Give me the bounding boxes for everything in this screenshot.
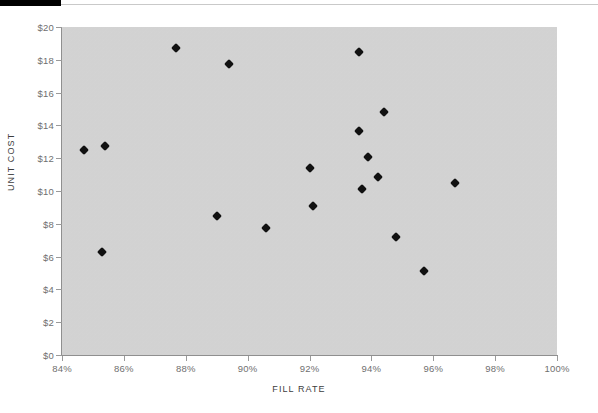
data-point	[261, 223, 271, 233]
x-tick-label: 92%	[300, 363, 320, 374]
data-point	[379, 107, 389, 117]
data-point	[305, 163, 315, 173]
x-tick-label: 86%	[114, 363, 134, 374]
data-point	[391, 232, 401, 242]
scatter-chart-figure: $0$2$4$6$8$10$12$14$16$18$20 84%86%88%90…	[0, 0, 598, 413]
y-tick-label: $4	[2, 284, 54, 295]
x-tick-mark	[310, 356, 311, 361]
data-point	[97, 247, 107, 257]
y-tick-mark	[56, 289, 62, 290]
y-tick-mark	[56, 158, 62, 159]
x-tick-label: 96%	[423, 363, 443, 374]
y-tick-mark	[56, 257, 62, 258]
x-axis-title: FILL RATE	[0, 384, 598, 394]
x-tick-mark	[371, 356, 372, 361]
plot-area	[62, 27, 557, 355]
x-tick-label: 84%	[52, 363, 72, 374]
y-tick-mark	[56, 93, 62, 94]
y-tick-label: $6	[2, 251, 54, 262]
y-axis-title: UNIT COST	[6, 133, 16, 191]
y-tick-mark	[56, 322, 62, 323]
y-tick-label: $20	[2, 22, 54, 33]
y-tick-mark	[56, 125, 62, 126]
data-point	[172, 43, 182, 53]
data-point	[354, 126, 364, 136]
x-tick-mark	[495, 356, 496, 361]
y-tick-label: $18	[2, 54, 54, 65]
chart-page: $0$2$4$6$8$10$12$14$16$18$20 84%86%88%90…	[0, 0, 598, 413]
data-point	[373, 172, 383, 182]
data-point	[308, 201, 318, 211]
x-tick-mark	[248, 356, 249, 361]
x-tick-mark	[186, 356, 187, 361]
y-tick-label: $16	[2, 87, 54, 98]
y-tick-label: $2	[2, 317, 54, 328]
x-tick-mark	[433, 356, 434, 361]
data-point	[79, 145, 89, 155]
data-point	[363, 152, 373, 162]
x-tick-mark	[62, 356, 63, 361]
plot-background-texture	[62, 27, 557, 355]
data-point	[212, 211, 222, 221]
data-point	[357, 184, 367, 194]
y-tick-mark	[56, 191, 62, 192]
y-tick-label: $0	[2, 350, 54, 361]
data-point	[224, 59, 234, 69]
y-tick-mark	[56, 60, 62, 61]
y-tick-mark	[56, 224, 62, 225]
data-point	[354, 47, 364, 57]
x-tick-label: 90%	[238, 363, 258, 374]
y-tick-mark	[56, 27, 62, 28]
x-tick-mark	[124, 356, 125, 361]
x-tick-label: 88%	[176, 363, 196, 374]
x-tick-mark	[557, 356, 558, 361]
y-tick-label: $14	[2, 120, 54, 131]
data-point	[450, 178, 460, 188]
y-tick-label: $8	[2, 218, 54, 229]
x-tick-label: 98%	[485, 363, 505, 374]
data-point	[100, 141, 110, 151]
x-tick-label: 94%	[362, 363, 382, 374]
x-tick-label: 100%	[544, 363, 569, 374]
data-point	[419, 266, 429, 276]
